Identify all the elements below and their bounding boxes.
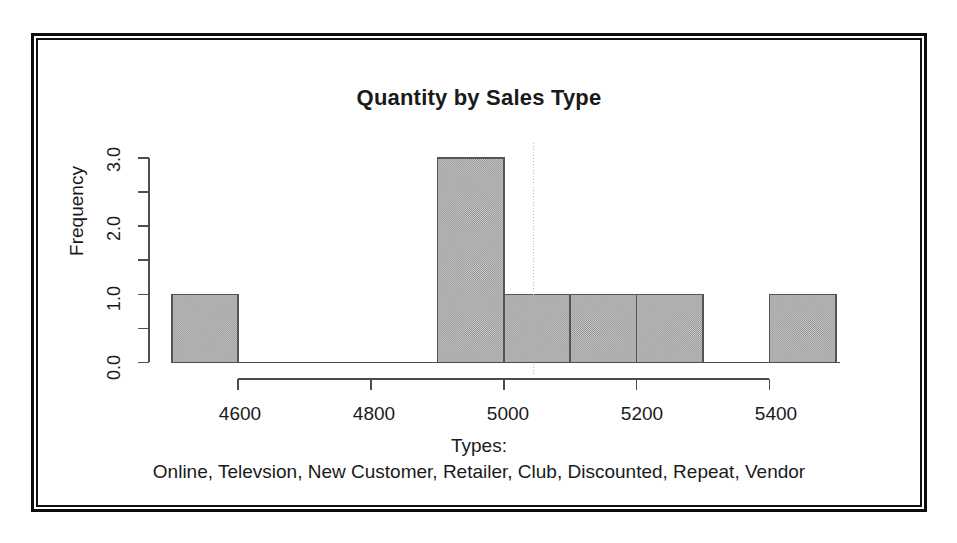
x-axis	[238, 379, 769, 390]
x-axis-tick-label: 5200	[607, 403, 677, 425]
y-axis	[138, 158, 149, 362]
chart-outer-frame: Quantity by Sales Type Frequency 0.01.02…	[31, 33, 927, 512]
histogram-bar	[504, 294, 570, 362]
histogram-bar	[637, 294, 703, 362]
histogram-bar	[172, 294, 238, 362]
histogram-bar	[437, 158, 503, 362]
y-axis-tick-label: 2.0	[104, 206, 125, 252]
x-axis-tick-label: 4800	[339, 403, 409, 425]
x-axis-tick-label: 5000	[473, 403, 543, 425]
x-axis-tick-label: 4600	[205, 403, 275, 425]
caption-type-list: Online, Televsion, New Customer, Retaile…	[38, 461, 920, 483]
histogram-bar	[769, 294, 835, 362]
y-axis-tick-label: 1.0	[104, 275, 125, 321]
bars-group	[172, 158, 836, 362]
chart-inner-frame: Quantity by Sales Type Frequency 0.01.02…	[36, 38, 922, 507]
y-axis-tick-label: 3.0	[104, 137, 125, 183]
caption-heading: Types:	[38, 435, 920, 457]
histogram-bar	[570, 294, 636, 362]
y-axis-tick-label: 0.0	[104, 345, 125, 391]
x-axis-tick-label: 5400	[741, 403, 811, 425]
